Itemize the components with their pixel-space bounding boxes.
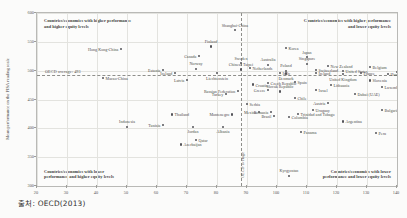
gridline-horizontal bbox=[37, 13, 397, 14]
x-axis-tick-label: 80 bbox=[214, 190, 218, 195]
quadrant-note-bottom-right: Countries/economies with lower performan… bbox=[323, 169, 391, 180]
data-point-label: Panama bbox=[304, 130, 317, 135]
data-point-label: Israel bbox=[319, 88, 328, 93]
data-point-label: Albania bbox=[217, 129, 230, 134]
data-point-label: Colombia bbox=[292, 115, 308, 120]
data-point bbox=[288, 175, 290, 177]
data-point bbox=[300, 131, 302, 133]
data-point bbox=[222, 126, 224, 128]
x-axis-tick-mark bbox=[306, 185, 307, 188]
data-point bbox=[354, 93, 356, 95]
plot-area: Countries/economies with higher performa… bbox=[36, 12, 398, 187]
data-point-label: Spain bbox=[298, 79, 307, 84]
x-axis-tick-mark bbox=[336, 185, 337, 188]
data-point-label: Sweden bbox=[235, 56, 248, 61]
data-point-label: France bbox=[364, 70, 375, 75]
x-axis-tick-mark bbox=[246, 185, 247, 188]
data-point-label: Hungary bbox=[391, 72, 398, 77]
data-point bbox=[126, 126, 128, 128]
data-point-label: Macao-China bbox=[106, 76, 128, 81]
data-point bbox=[369, 79, 371, 81]
x-axis-tick-mark bbox=[96, 185, 97, 188]
data-point bbox=[273, 115, 275, 117]
data-point-label: Japan bbox=[302, 50, 311, 55]
quadrant-note-bottom-left: Countries/economies with lower performan… bbox=[44, 169, 114, 180]
data-point-label: Chile bbox=[298, 96, 307, 101]
data-point bbox=[171, 113, 173, 115]
x-axis-tick-mark bbox=[66, 185, 67, 188]
data-point-label: Thailand bbox=[175, 112, 190, 117]
data-point-label: Argentina bbox=[346, 119, 362, 124]
data-point-label: Mexico bbox=[244, 110, 256, 115]
data-point-label: Hong Kong-China bbox=[88, 46, 118, 51]
data-point-label: Iceland bbox=[160, 70, 172, 75]
data-point-label: Luxembourg bbox=[385, 84, 398, 89]
x-axis-tick-label: 130 bbox=[363, 190, 369, 195]
y-axis: 600550500450400350300 bbox=[0, 12, 36, 185]
gridline-horizontal bbox=[37, 157, 397, 158]
data-point-label: Netherlands bbox=[253, 65, 273, 70]
data-point-label: Ireland bbox=[319, 70, 331, 75]
data-point bbox=[342, 70, 344, 72]
data-point bbox=[192, 126, 194, 128]
gridline-vertical bbox=[397, 13, 398, 186]
data-point bbox=[225, 93, 227, 95]
data-point bbox=[306, 63, 308, 65]
data-point bbox=[195, 139, 197, 141]
data-point-label: Korea bbox=[289, 45, 299, 50]
data-point bbox=[315, 89, 317, 91]
data-point-label: Dubai (UAE) bbox=[358, 91, 380, 96]
data-point bbox=[162, 124, 164, 126]
data-point-label: Kyrgyzstan bbox=[280, 168, 299, 173]
data-point-label: Austria bbox=[313, 100, 325, 105]
data-point bbox=[381, 86, 383, 88]
data-point bbox=[288, 116, 290, 118]
data-point-label: Turkey bbox=[212, 91, 224, 96]
data-point bbox=[330, 84, 332, 86]
gridline-horizontal bbox=[37, 100, 397, 101]
data-point bbox=[342, 120, 344, 122]
x-axis-tick-label: 50 bbox=[124, 190, 128, 195]
x-axis-tick-label: 40 bbox=[94, 190, 98, 195]
data-point bbox=[285, 72, 287, 74]
data-point-label: Shanghai-China bbox=[222, 23, 248, 28]
data-point-label: Norway bbox=[189, 61, 202, 66]
data-point bbox=[240, 68, 242, 70]
x-axis-tick-mark bbox=[186, 185, 187, 188]
data-point-label: Liechtenstein bbox=[206, 76, 228, 81]
x-axis-tick-mark bbox=[276, 185, 277, 188]
data-point-label: Lithuania bbox=[334, 83, 350, 88]
data-point-label: Chinese Taipei bbox=[229, 62, 253, 67]
data-point bbox=[369, 66, 371, 68]
data-point-label: Poland bbox=[280, 63, 291, 68]
data-point-label: Finland bbox=[205, 39, 218, 44]
data-point bbox=[381, 109, 383, 111]
x-axis-tick-label: 60 bbox=[154, 190, 158, 195]
x-axis-tick-label: 30 bbox=[64, 190, 68, 195]
data-point bbox=[267, 89, 269, 91]
oecd-average-horizontal-label: OECD average: 493 bbox=[45, 69, 81, 74]
data-point bbox=[234, 29, 236, 31]
data-point-label: Brazil bbox=[261, 114, 271, 119]
data-point-label: Belgium bbox=[373, 65, 387, 70]
x-axis-tick-label: 110 bbox=[303, 190, 309, 195]
data-point-label: Singapore bbox=[299, 56, 316, 61]
data-point-label: Bulgaria bbox=[385, 107, 398, 112]
oecd-average-vertical-label: OECD average bbox=[240, 152, 245, 178]
data-point-label: Indonesia bbox=[119, 119, 135, 124]
data-point bbox=[231, 113, 233, 115]
data-point-label: Estonia bbox=[148, 68, 160, 73]
x-axis-tick-label: 20 bbox=[34, 190, 38, 195]
data-point bbox=[198, 55, 200, 57]
data-point-label: Serbia bbox=[250, 102, 260, 107]
data-point bbox=[375, 132, 377, 134]
data-point bbox=[210, 45, 212, 47]
data-point-label: Montenegro bbox=[209, 112, 229, 117]
data-point bbox=[237, 90, 239, 92]
data-point bbox=[279, 90, 281, 92]
data-point bbox=[327, 102, 329, 104]
data-point-label: Australia bbox=[260, 57, 275, 62]
data-point-label: Slovenia bbox=[373, 78, 387, 83]
data-point-label: Azerbaijan bbox=[184, 142, 202, 147]
x-axis-tick-mark bbox=[366, 185, 367, 188]
